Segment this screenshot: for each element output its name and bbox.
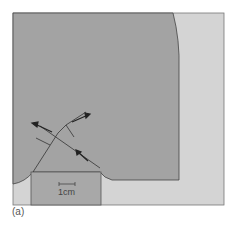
scale-bar-label: 1cm bbox=[58, 187, 75, 197]
figure-caption: (a) bbox=[12, 206, 24, 217]
workpiece bbox=[13, 13, 179, 184]
diagram-canvas bbox=[0, 0, 234, 227]
